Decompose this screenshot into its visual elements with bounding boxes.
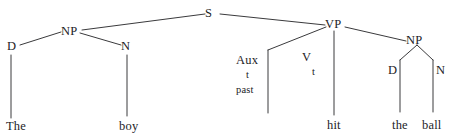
terminal-the-subject: The (6, 120, 26, 133)
node-aux-feature-past: past (236, 85, 254, 96)
node-np-object: NP (406, 34, 422, 47)
node-aux-feature-t: t (246, 70, 249, 81)
node-n-object: N (436, 64, 445, 77)
node-v-feature-t: t (312, 67, 315, 78)
branch-np-object-to-n (417, 45, 433, 60)
node-vp: VP (325, 18, 341, 31)
tree-branches (0, 0, 452, 137)
branch-s-to-np-subject (82, 14, 205, 30)
terminal-ball: ball (422, 119, 442, 132)
branch-vp-to-np-object (345, 27, 406, 41)
terminal-the-object: the (392, 119, 408, 132)
branch-np-subject-to-n (80, 33, 121, 45)
node-s: S (205, 7, 212, 20)
node-d-subject: D (7, 40, 16, 53)
branch-s-to-vp (220, 14, 325, 25)
node-n-subject: N (121, 40, 130, 53)
terminal-hit: hit (327, 119, 341, 132)
syntax-tree-figure: S NP D N VP Aux t past V t NP D N The bo… (0, 0, 452, 137)
terminal-boy: boy (119, 120, 138, 133)
node-v: V (302, 51, 311, 64)
branch-np-object-to-d (400, 45, 417, 60)
node-np-subject: NP (61, 25, 77, 38)
node-d-object: D (388, 64, 397, 77)
branch-np-subject-to-d (20, 32, 61, 45)
branch-vp-to-aux (268, 27, 326, 50)
node-aux: Aux (236, 54, 258, 67)
